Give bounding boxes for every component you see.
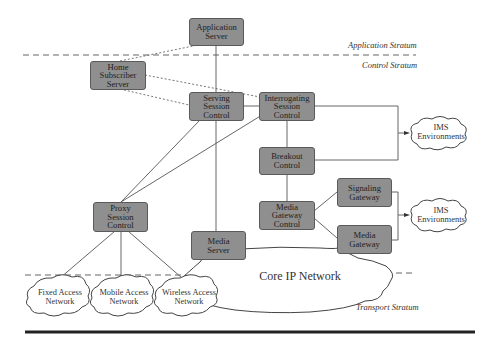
ims-environments-label-1: IMS Environments [408, 123, 474, 141]
application-server-node[interactable]: Application Server [189, 18, 244, 46]
media-gateway-control-node[interactable]: Media Gateway Control [259, 201, 315, 230]
media-gateway-node[interactable]: Media Gateway [337, 225, 392, 254]
signaling-gateway-node[interactable]: Signaling Gateway [337, 178, 392, 207]
application-stratum-label: Application Stratum [348, 40, 417, 50]
ims-environments-label-2: IMS Environments [408, 206, 474, 224]
diagram-connections [0, 0, 493, 337]
core-ip-network-label: Core IP Network [250, 270, 350, 283]
serving-session-control-node[interactable]: Serving Session Control [189, 92, 244, 121]
breakout-control-node[interactable]: Breakout Control [259, 147, 315, 175]
media-server-node[interactable]: Media Server [191, 231, 246, 260]
wireless-access-network-label: Wireless Access Network [152, 288, 226, 306]
proxy-session-control-node[interactable]: Proxy Session Control [93, 202, 148, 232]
interrogating-session-control-node[interactable]: Interrogating Session Control [259, 92, 315, 121]
fixed-access-network-label: Fixed Access Network [24, 288, 96, 306]
transport-stratum-label: Transport Stratum [356, 302, 419, 312]
control-stratum-label: Control Stratum [362, 60, 417, 70]
home-subscriber-server-node[interactable]: Home Subscriber Server [90, 61, 146, 90]
mobile-access-network-label: Mobile Access Network [88, 288, 160, 306]
